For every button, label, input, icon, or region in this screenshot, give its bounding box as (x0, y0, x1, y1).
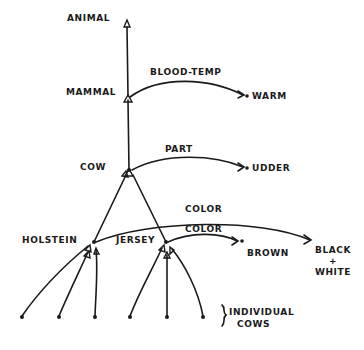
node-jersey: JERSEY (116, 236, 155, 245)
node-mammal: MAMMAL (66, 88, 116, 97)
node-black-white-line3: WHITE (313, 268, 353, 277)
isa-cow1-holstein (22, 246, 88, 316)
isa-link-holstein-cow (94, 175, 126, 242)
node-udder: UDDER (252, 164, 290, 173)
edge-label-blood-temp: BLOOD-TEMP (150, 68, 221, 77)
node-black-white-line2: + (313, 257, 353, 266)
edge-color-jersey (168, 234, 237, 242)
isa-cow3-holstein (95, 250, 97, 316)
isa-link-mammal-animal (127, 27, 128, 96)
edge-label-part: PART (165, 145, 193, 154)
brace (222, 305, 226, 326)
node-individual-cows: INDIVIDUAL COWS (229, 308, 294, 329)
individual-cows-line2: COWS (237, 320, 294, 329)
edge-part (132, 157, 243, 170)
isa-link-cow-mammal (128, 100, 129, 170)
node-holstein: HOLSTEIN (22, 236, 77, 245)
node-brown: BROWN (247, 249, 289, 258)
isa-link-jersey-cow (133, 175, 166, 242)
node-cow: COW (80, 163, 106, 172)
node-black-white: BLACK + WHITE (313, 246, 353, 277)
node-black-white-line1: BLACK (313, 246, 353, 255)
edge-label-color-holstein: COLOR (185, 205, 222, 214)
isa-cow6-jersey (172, 249, 203, 316)
isa-cow2-holstein (59, 252, 88, 316)
node-warm: WARM (252, 92, 287, 101)
diagram-canvas (0, 0, 364, 350)
isa-cow4-jersey (130, 248, 162, 316)
individual-cows-line1: INDIVIDUAL (229, 308, 294, 317)
node-animal: ANIMAL (67, 14, 110, 23)
edge-blood-temp (130, 81, 243, 97)
edge-label-color-jersey: COLOR (185, 225, 222, 234)
